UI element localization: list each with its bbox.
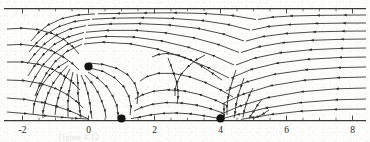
figure-caption: Figure 4.12 bbox=[58, 133, 99, 142]
streamlines-top bbox=[84, 13, 256, 78]
streamlines-left-upper bbox=[7, 14, 95, 119]
x-tick-label: -2 bbox=[19, 125, 27, 135]
marker-node-upper bbox=[84, 62, 92, 70]
axis-bottom bbox=[4, 116, 366, 121]
x-tick-label: 2 bbox=[152, 125, 157, 135]
marker-node-x4 bbox=[216, 114, 224, 122]
streamlines-right bbox=[219, 15, 366, 119]
x-tick-label: 8 bbox=[350, 125, 355, 135]
streamline-plot: .sl{fill:none;stroke:#2b2b2b;stroke-widt… bbox=[0, 0, 370, 142]
figure-container: .sl{fill:none;stroke:#2b2b2b;stroke-widt… bbox=[0, 0, 370, 142]
x-tick-label: 4 bbox=[218, 125, 223, 135]
x-tick-label: 6 bbox=[284, 125, 289, 135]
streamlines-axis-lower bbox=[131, 53, 233, 118]
axis-bottom-ticks bbox=[23, 116, 353, 121]
marker-node-x1 bbox=[117, 114, 125, 122]
